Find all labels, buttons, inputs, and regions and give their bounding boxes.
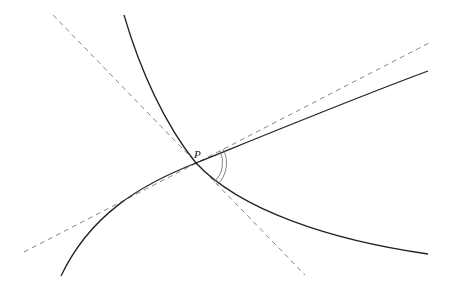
tangent-line-1 [53,15,305,275]
point-label: P [193,148,201,160]
intersection-point [195,162,198,165]
curve-intersection-diagram: P [0,0,450,297]
curve-2 [61,71,428,276]
tangent-line-2 [24,43,429,252]
curve-1 [124,15,428,254]
